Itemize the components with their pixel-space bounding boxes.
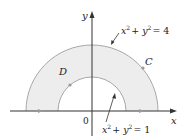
region-label: D	[58, 66, 67, 77]
inner-pointer-arrow-icon	[112, 93, 116, 99]
outer-circle-equation: x2+ y2= 4	[121, 24, 169, 36]
inner-eq-rhs: = 1	[133, 124, 150, 135]
inner-eq-exp-y: 2	[129, 123, 133, 130]
x-axis-label: x	[171, 115, 177, 126]
inner-circle-equation: x2+ y2= 1	[102, 123, 150, 135]
inner-pointer-line	[106, 96, 114, 122]
origin-label: 0	[83, 116, 89, 126]
inner-eq-exp-x: 2	[107, 123, 111, 130]
annulus-diagram: y x 0 D C x2+ y2= 4 x2+ y2= 1	[0, 0, 188, 140]
x-axis-arrow-icon	[170, 109, 177, 114]
outer-eq-rhs: = 4	[152, 25, 169, 36]
orientation-marker-icon	[68, 83, 71, 86]
y-axis-label: y	[81, 10, 88, 21]
outer-eq-y: + y	[131, 25, 148, 36]
outer-eq-exp-x: 2	[126, 24, 130, 31]
outer-eq-exp-y: 2	[148, 24, 152, 31]
curve-label: C	[145, 56, 153, 67]
y-axis-arrow-icon	[90, 11, 95, 18]
inner-eq-y: + y	[112, 124, 129, 135]
